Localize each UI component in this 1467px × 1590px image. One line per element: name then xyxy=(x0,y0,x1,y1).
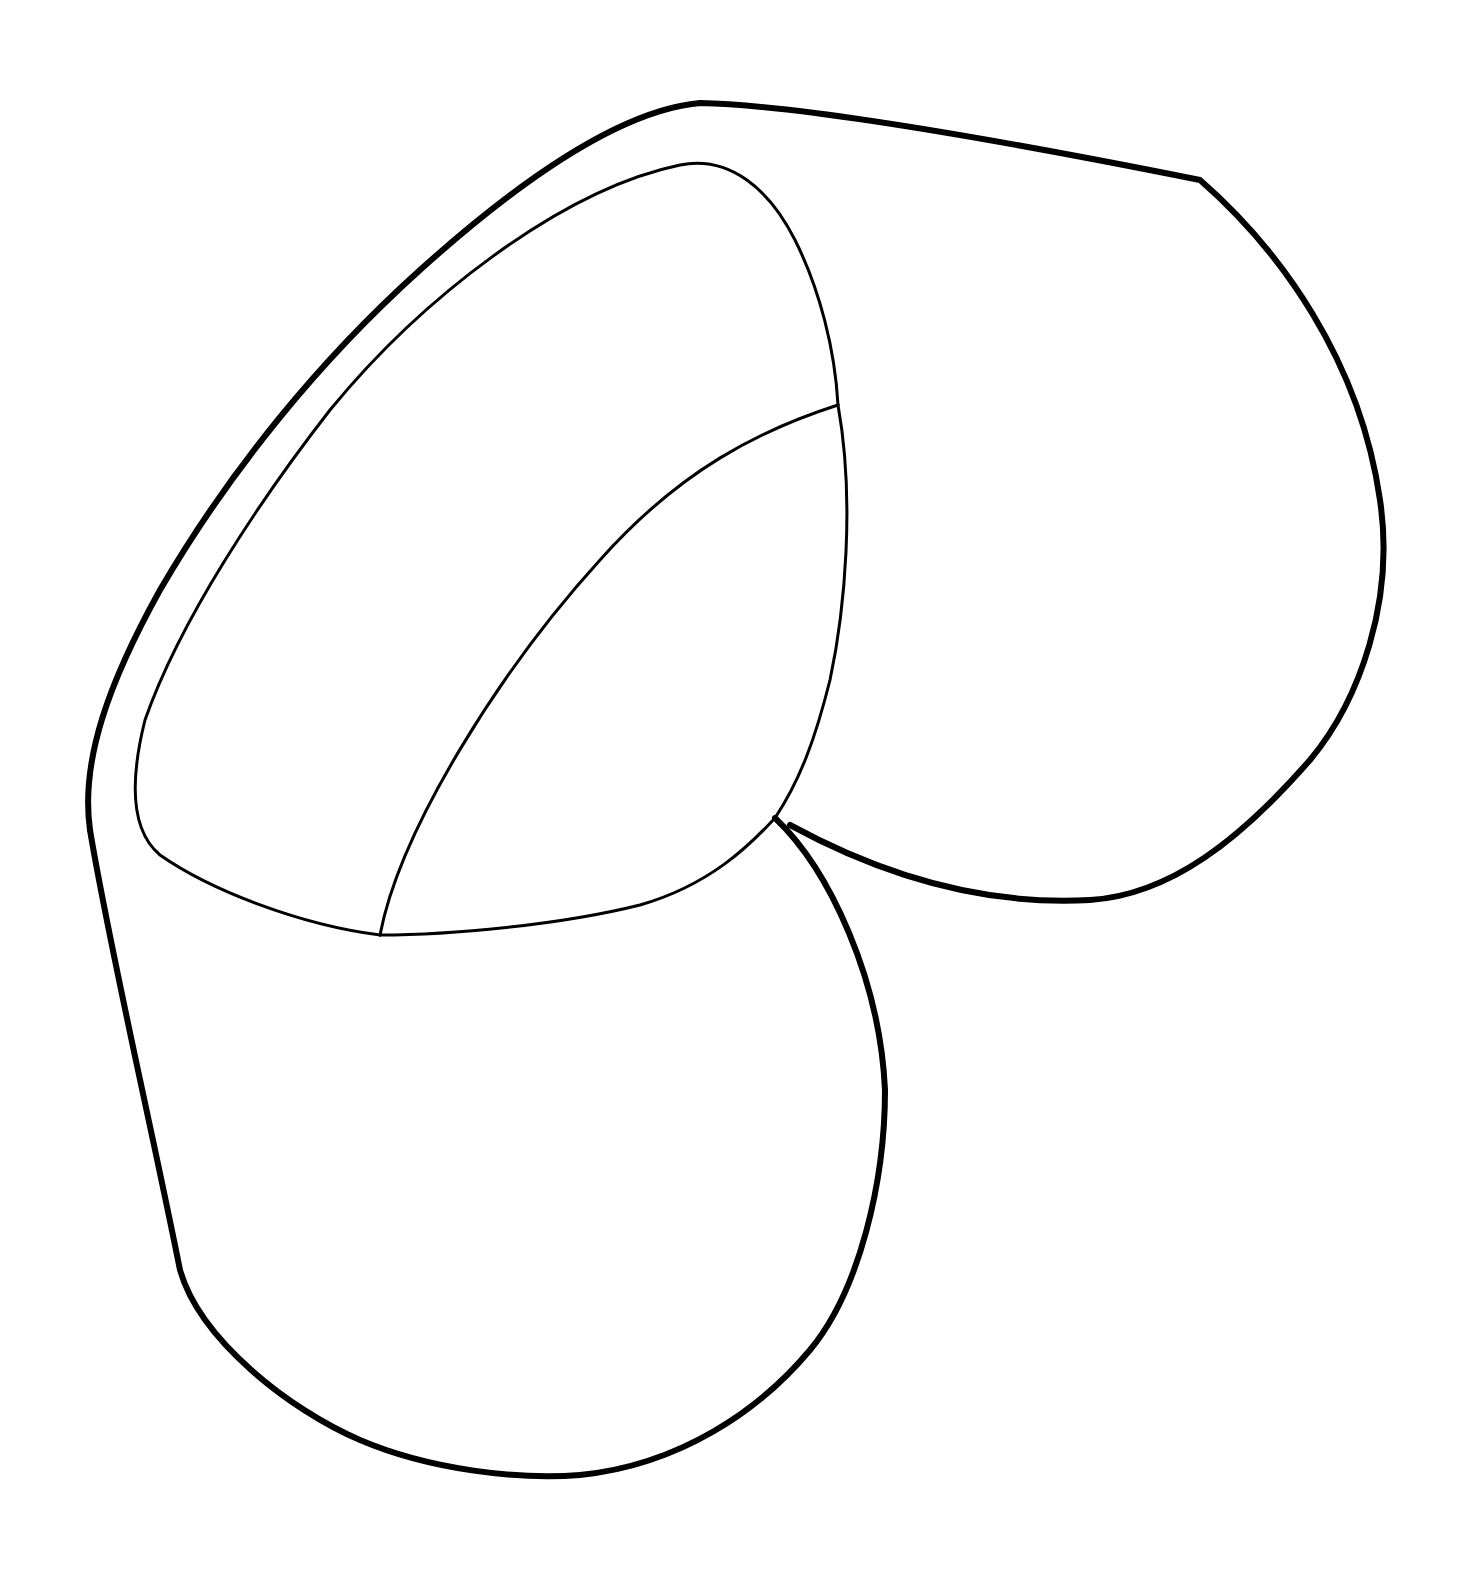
inner-opening-outline xyxy=(135,163,838,935)
outer-top-outline xyxy=(88,103,1383,901)
inner-divider-curve xyxy=(380,405,838,935)
inner-bottom-rim xyxy=(380,818,775,935)
inner-right-wall xyxy=(775,405,847,818)
line-drawing-canvas xyxy=(0,0,1467,1590)
outer-bottom-outline xyxy=(90,818,885,1476)
line-art-svg xyxy=(0,0,1467,1590)
